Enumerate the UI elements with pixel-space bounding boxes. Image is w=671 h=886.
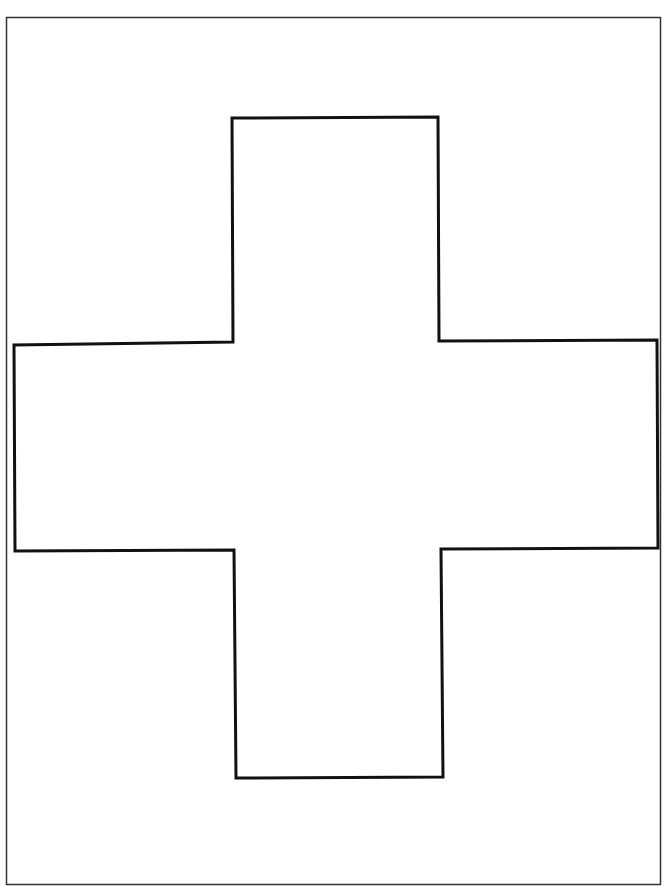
page-canvas <box>0 0 671 886</box>
cross-outline-shape <box>14 117 658 778</box>
